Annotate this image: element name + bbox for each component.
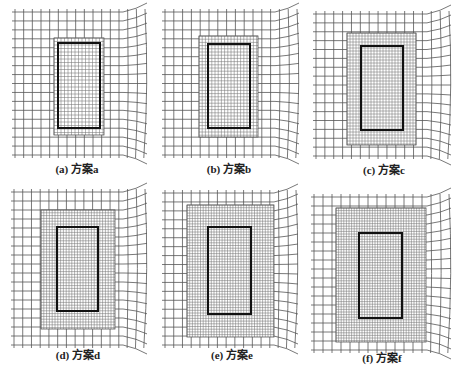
mesh-panel-c [313,5,451,165]
mesh-panel-b [162,3,299,164]
mesh-panel-d [11,183,147,354]
mesh-scheme-figure [0,0,459,377]
caption-e: (e) 方案e [211,346,253,362]
caption-b: (b) 方案b [207,160,251,176]
caption-d: (d) 方案d [56,346,100,362]
caption-a: (a) 方案a [55,160,98,176]
caption-c: (c) 方案c [363,161,405,177]
mesh-panel-f [311,188,451,359]
mesh-panel-e [162,184,298,354]
mesh-panel-a [12,3,147,164]
panels-layer [11,3,451,359]
caption-f: (f) 方案f [362,349,401,365]
